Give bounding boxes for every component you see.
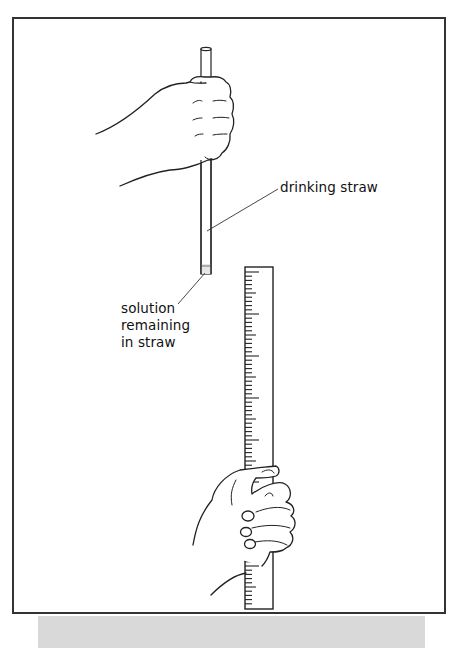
hand-straw <box>96 77 234 186</box>
solution-in-straw <box>201 264 211 274</box>
leader-line-solution <box>178 273 205 304</box>
label-solution-line1: solution <box>121 300 175 317</box>
label-solution-line2: remaining <box>121 317 190 334</box>
leader-line-straw <box>207 189 278 231</box>
hand-ruler <box>193 466 295 595</box>
label-solution-line3: in straw <box>121 334 176 351</box>
label-drinking-straw: drinking straw <box>280 179 378 196</box>
diagram-canvas <box>0 0 460 655</box>
